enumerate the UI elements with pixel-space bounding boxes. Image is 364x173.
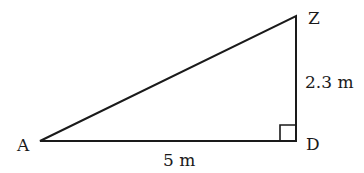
- right-triangle-diagram: Z 2.3 m D A 5 m: [0, 0, 364, 173]
- vertex-label-a: A: [16, 135, 30, 155]
- right-angle-marker: [280, 125, 296, 141]
- vertex-label-z: Z: [308, 8, 320, 28]
- side-label-dz: 2.3 m: [305, 72, 354, 92]
- side-label-ad: 5 m: [163, 150, 195, 170]
- triangle-azd: [40, 16, 296, 141]
- vertex-label-d: D: [306, 134, 320, 154]
